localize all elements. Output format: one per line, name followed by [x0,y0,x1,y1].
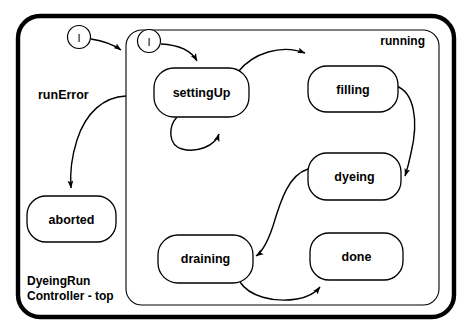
initial-state-running-label: I [147,36,150,48]
state-draining-label: draining [181,252,230,266]
state-diagram: aborted settingUp filling dyeing drainin… [0,0,470,335]
diagram-canvas: aborted settingUp filling dyeing drainin… [0,0,470,335]
transition-runerror-label: runError [38,88,89,102]
state-settingup-label: settingUp [173,86,231,100]
state-aborted-label: aborted [49,213,95,227]
diagram-title-line2: Controller - top [27,289,114,303]
state-filling-label: filling [336,83,369,97]
initial-state-top-label: I [77,32,80,44]
region-running-label: running [380,34,425,48]
state-done-label: done [342,250,372,264]
diagram-title-line1: DyeingRun [27,274,90,288]
state-dyeing-label: dyeing [334,170,374,184]
